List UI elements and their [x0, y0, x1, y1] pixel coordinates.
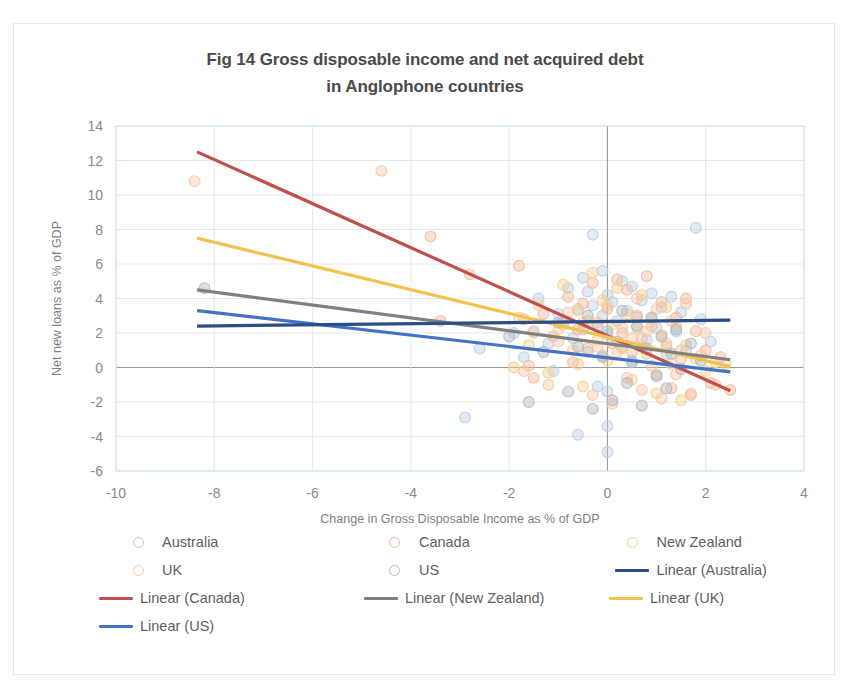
- data-point: [577, 381, 588, 392]
- data-point: [632, 293, 643, 304]
- legend-item-linear-uk[interactable]: Linear (UK): [608, 585, 818, 610]
- legend-label: New Zealand: [656, 534, 741, 550]
- legend-label: Linear (Australia): [656, 562, 766, 578]
- x-tick-label: 0: [604, 485, 612, 501]
- data-point: [573, 429, 584, 440]
- data-point: [543, 367, 554, 378]
- data-point: [622, 378, 633, 389]
- data-point: [543, 379, 554, 390]
- data-point: [376, 165, 387, 176]
- data-point: [602, 421, 613, 432]
- data-point: [587, 404, 598, 415]
- data-point: [587, 390, 598, 401]
- data-point: [518, 366, 529, 377]
- data-point: [573, 359, 584, 370]
- y-tick-label: -4: [91, 429, 104, 445]
- data-point: [573, 341, 584, 352]
- data-point: [607, 395, 618, 406]
- legend-label: UK: [162, 562, 182, 578]
- data-point: [602, 447, 613, 458]
- data-point: [651, 371, 662, 382]
- y-tick-label: -6: [91, 463, 104, 479]
- y-tick-label: 12: [87, 153, 103, 169]
- legend-label: Linear (New Zealand): [405, 590, 544, 606]
- data-point: [460, 412, 471, 423]
- data-point: [636, 400, 647, 411]
- data-point: [641, 271, 652, 282]
- y-axis-title: Net new loans as % of GDP: [50, 221, 64, 376]
- legend-marker-circle-icon: [120, 534, 156, 550]
- legend-item-uk[interactable]: UK: [98, 557, 377, 582]
- legend-marker-circle-icon: [614, 534, 650, 550]
- legend-item-linear-canada[interactable]: Linear (Canada): [98, 585, 363, 610]
- legend-row: Australia Canada New Zealand: [98, 529, 818, 554]
- data-point: [700, 328, 711, 339]
- figure-frame: Fig 14 Gross disposable income and net a…: [13, 23, 835, 675]
- legend-label: Linear (UK): [650, 590, 724, 606]
- data-point: [686, 338, 697, 349]
- legend-marker-line-icon: [98, 590, 134, 606]
- legend-label: US: [419, 562, 439, 578]
- data-point: [690, 326, 701, 337]
- data-point: [671, 324, 682, 335]
- legend-row: Linear (US): [98, 613, 818, 638]
- legend-label: Linear (US): [140, 618, 214, 634]
- legend-label: Australia: [162, 534, 218, 550]
- data-point: [514, 260, 525, 271]
- data-point: [582, 343, 593, 354]
- y-tick-label: 10: [87, 187, 103, 203]
- legend-marker-circle-icon: [377, 562, 413, 578]
- legend-item-us[interactable]: US: [377, 557, 615, 582]
- data-point: [577, 272, 588, 283]
- y-tick-label: 2: [95, 325, 103, 341]
- x-tick-label: 2: [702, 485, 710, 501]
- data-point: [636, 385, 647, 396]
- data-point: [686, 388, 697, 399]
- data-point: [563, 291, 574, 302]
- data-point: [656, 393, 667, 404]
- data-point: [617, 322, 628, 333]
- data-point: [681, 298, 692, 309]
- data-point: [523, 397, 534, 408]
- chart-legend: Australia Canada New Zealand UK US: [98, 529, 818, 641]
- legend-row: Linear (Canada) Linear (New Zealand) Lin…: [98, 585, 818, 610]
- data-point: [509, 362, 520, 373]
- data-point: [676, 395, 687, 406]
- data-point: [656, 331, 667, 342]
- data-point: [587, 278, 598, 289]
- data-point: [587, 267, 598, 278]
- legend-item-linear-new-zealand[interactable]: Linear (New Zealand): [363, 585, 608, 610]
- legend-item-canada[interactable]: Canada: [377, 529, 615, 554]
- x-tick-label: -8: [208, 485, 221, 501]
- x-tick-label: -2: [503, 485, 516, 501]
- legend-label: Linear (Canada): [140, 590, 245, 606]
- data-point: [641, 326, 652, 337]
- data-point: [666, 291, 677, 302]
- data-point: [612, 347, 623, 358]
- data-point: [582, 310, 593, 321]
- y-tick-label: -2: [91, 394, 104, 410]
- data-point: [573, 305, 584, 316]
- data-point: [597, 266, 608, 277]
- data-point: [528, 372, 539, 383]
- y-tick-label: 6: [95, 256, 103, 272]
- legend-item-new-zealand[interactable]: New Zealand: [614, 529, 818, 554]
- data-point: [617, 305, 628, 316]
- data-point: [661, 383, 672, 394]
- legend-item-linear-australia[interactable]: Linear (Australia): [614, 557, 818, 582]
- data-point: [563, 386, 574, 397]
- data-point: [189, 176, 200, 187]
- data-point: [612, 283, 623, 294]
- x-tick-label: -4: [405, 485, 418, 501]
- y-tick-label: 0: [95, 360, 103, 376]
- data-point: [425, 231, 436, 242]
- x-axis-title: Change in Gross Disposable Income as % o…: [320, 512, 599, 526]
- legend-item-australia[interactable]: Australia: [98, 529, 377, 554]
- x-tick-label: 4: [800, 485, 808, 501]
- legend-marker-line-icon: [363, 590, 399, 606]
- legend-marker-line-icon: [614, 562, 650, 578]
- data-point: [602, 300, 613, 311]
- legend-row: UK US Linear (Australia): [98, 557, 818, 582]
- data-point: [661, 302, 672, 313]
- legend-item-linear-us[interactable]: Linear (US): [98, 613, 363, 638]
